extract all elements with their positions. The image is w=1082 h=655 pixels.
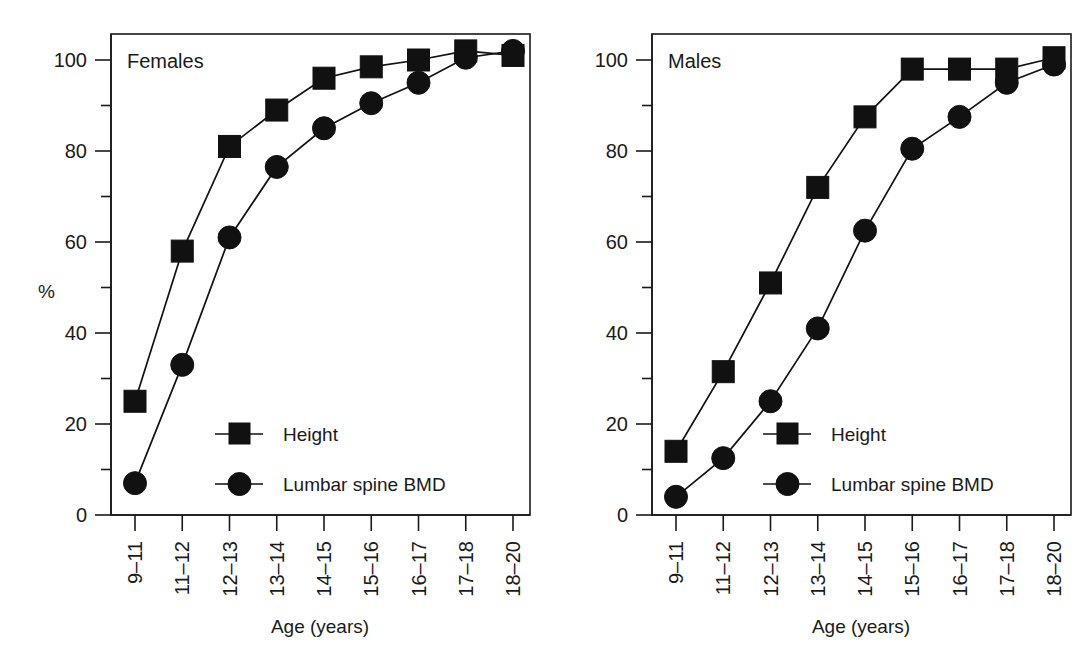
y-tick-label: 20 — [65, 413, 87, 435]
data-point-height — [949, 58, 971, 80]
legend-females: Height Lumbar spine BMD — [215, 423, 446, 496]
data-point-bmd — [360, 92, 383, 115]
y-tick-label: 60 — [606, 231, 628, 253]
legend-marker-circle-bmd — [228, 473, 251, 496]
chart-panel-males: 020406080100 9–1111–1212–1313–1414–1515–… — [541, 0, 1082, 655]
legend-marker-circle-bmd — [776, 473, 799, 496]
y-tick-label: 80 — [65, 140, 87, 162]
legend-marker-square-height — [229, 423, 250, 444]
y-tick-label: 80 — [606, 140, 628, 162]
females-y-axis: 020406080100 — [54, 34, 111, 526]
data-point-height — [760, 272, 782, 294]
x-tick-label: 12–13 — [760, 541, 782, 597]
y-tick-label: 100 — [595, 49, 628, 71]
y-tick-label: 0 — [617, 504, 628, 526]
data-point-height — [124, 390, 146, 412]
data-point-bmd — [407, 71, 430, 94]
series-line-square — [135, 51, 513, 401]
x-tick-label: 9–11 — [124, 541, 146, 584]
data-point-height — [807, 176, 829, 198]
females-plot-svg: 020406080100 9–1111–1212–1313–1414–1515–… — [0, 0, 541, 655]
x-tick-label: 17–18 — [996, 541, 1018, 597]
legend-label-height: Height — [283, 424, 339, 445]
males-x-axis: 9–1111–1212–1313–1414–1515–1616–1717–181… — [652, 515, 1071, 597]
data-point-height — [360, 56, 382, 78]
x-axis-label-males: Age (years) — [812, 616, 910, 637]
legend-item-bmd: Lumbar spine BMD — [215, 473, 446, 496]
females-x-axis: 9–1111–1212–1313–1414–1515–1616–1717–181… — [111, 515, 530, 597]
data-point-bmd — [171, 353, 194, 376]
data-point-bmd — [995, 71, 1018, 94]
figure-container: 020406080100 9–1111–1212–1313–1414–1515–… — [0, 0, 1082, 655]
data-point-bmd — [948, 105, 971, 128]
x-tick-label: 15–16 — [360, 541, 382, 597]
data-point-bmd — [454, 46, 477, 69]
data-point-bmd — [712, 447, 735, 470]
data-point-height — [408, 49, 430, 71]
x-tick-label: 17–18 — [455, 541, 477, 597]
x-tick-label: 13–14 — [266, 541, 288, 597]
x-tick-label: 12–13 — [219, 541, 241, 597]
data-point-height — [219, 135, 241, 157]
males-y-axis: 020406080100 — [595, 34, 652, 526]
legend-label-bmd: Lumbar spine BMD — [283, 474, 446, 495]
y-tick-label: 20 — [606, 413, 628, 435]
y-tick-label: 100 — [54, 49, 87, 71]
y-tick-label: 40 — [65, 322, 87, 344]
series-line-circle — [135, 51, 513, 483]
data-point-bmd — [313, 117, 336, 140]
x-tick-label: 11–12 — [712, 541, 734, 595]
data-point-height — [266, 99, 288, 121]
legend-marker-square-height — [777, 423, 798, 444]
x-tick-label: 18–20 — [1043, 541, 1065, 597]
x-tick-label: 14–15 — [313, 541, 335, 597]
data-point-bmd — [502, 39, 525, 62]
x-tick-label: 9–11 — [665, 541, 687, 584]
y-tick-label: 0 — [76, 504, 87, 526]
x-tick-label: 16–17 — [408, 541, 430, 597]
males-plot-svg: 020406080100 9–1111–1212–1313–1414–1515–… — [541, 0, 1082, 655]
legend-item-height: Height — [763, 423, 887, 445]
data-point-height — [313, 67, 335, 89]
data-point-bmd — [265, 155, 288, 178]
x-tick-label: 11–12 — [171, 541, 193, 595]
x-tick-label: 13–14 — [807, 541, 829, 597]
data-point-height — [854, 106, 876, 128]
y-tick-label: 40 — [606, 322, 628, 344]
data-point-height — [665, 440, 687, 462]
legend-males: Height Lumbar spine BMD — [763, 423, 994, 496]
data-point-bmd — [1043, 53, 1066, 76]
data-point-height — [171, 240, 193, 262]
legend-item-bmd: Lumbar spine BMD — [763, 473, 994, 496]
data-point-bmd — [124, 472, 147, 495]
data-point-bmd — [665, 485, 688, 508]
x-axis-label-females: Age (years) — [271, 616, 369, 637]
chart-panel-females: 020406080100 9–1111–1212–1313–1414–1515–… — [0, 0, 541, 655]
y-tick-label: 60 — [65, 231, 87, 253]
x-tick-label: 16–17 — [949, 541, 971, 597]
x-tick-label: 18–20 — [502, 541, 524, 597]
panel-title-males: Males — [668, 50, 721, 72]
x-tick-label: 15–16 — [901, 541, 923, 597]
legend-item-height: Height — [215, 423, 339, 445]
data-point-bmd — [759, 390, 782, 413]
data-point-bmd — [806, 317, 829, 340]
panel-title-females: Females — [127, 50, 204, 72]
data-point-height — [901, 58, 923, 80]
data-point-bmd — [854, 219, 877, 242]
legend-label-bmd: Lumbar spine BMD — [831, 474, 994, 495]
data-point-height — [712, 361, 734, 383]
x-tick-label: 14–15 — [854, 541, 876, 597]
data-point-bmd — [901, 137, 924, 160]
data-point-bmd — [218, 226, 241, 249]
y-axis-label-females: % — [38, 281, 55, 302]
legend-label-height: Height — [831, 424, 887, 445]
